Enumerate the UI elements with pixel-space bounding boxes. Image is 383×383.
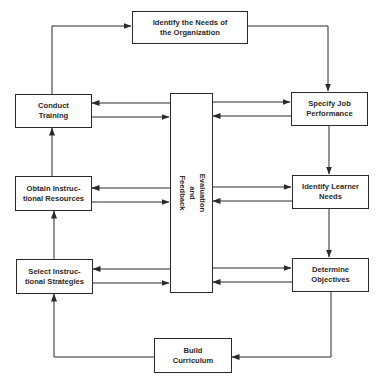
node-label: Identify Learner Needs [302,182,359,202]
node-identify-learner-needs: Identify Learner Needs [292,175,369,209]
arrow-conduct-to-identify-org [52,26,131,94]
arrow-identify-org-to-specify-job [247,26,328,91]
node-label: Specify Job Performance [306,99,352,119]
node-select-strategies: Select Instruc- tional Strategies [16,259,93,294]
node-identify-org-needs: Identify the Needs of the Organization [132,11,248,44]
node-label: Identify the Needs of the Organization [153,18,228,38]
node-conduct-training: Conduct Training [15,94,92,128]
arrow-curriculum-to-strategies [54,294,154,357]
node-evaluation-feedback: Evaluation and Feedback [170,93,213,293]
node-label: Build Curriculum [173,346,214,366]
node-obtain-resources: Obtain Instruc- tional Resources [15,176,92,211]
node-label: Determine Objectives [311,265,349,285]
node-label: Obtain Instruc- tional Resources [23,184,84,204]
arrow-objectives-to-curriculum [232,291,331,357]
node-label: Select Instruc- tional Strategies [25,267,84,287]
node-build-curriculum: Build Curriculum [154,338,232,373]
node-label: Conduct Training [38,101,69,121]
node-label: Evaluation and Feedback [177,148,207,238]
node-specify-job-performance: Specify Job Performance [291,92,368,126]
node-determine-objectives: Determine Objectives [292,258,369,292]
